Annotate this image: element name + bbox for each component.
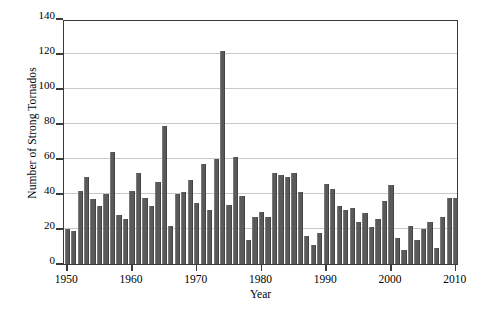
x-axis-tick [455, 265, 457, 271]
y-axis-tick-label: 40 [19, 185, 55, 195]
x-axis-tick-label: 2000 [360, 273, 420, 285]
x-axis-tick-label: 1970 [166, 273, 226, 285]
y-axis-tick [56, 158, 63, 160]
x-axis-tick-label: 1990 [295, 273, 355, 285]
y-axis-tick [56, 193, 63, 195]
y-axis-tick-label: 80 [19, 115, 55, 125]
y-axis-tick [56, 228, 63, 230]
y-axis-tick [56, 88, 63, 90]
x-axis-tick [390, 265, 392, 271]
y-axis-tick [56, 18, 63, 20]
y-axis-tick [56, 53, 63, 55]
tornado-bar-chart-figure: Number of Strong Tornados 02040608010012… [0, 0, 478, 309]
y-axis-tick-label: 0 [19, 255, 55, 265]
y-axis-tick-label: 120 [19, 45, 55, 55]
x-axis-tick [131, 265, 133, 271]
y-axis-tick-label: 60 [19, 150, 55, 160]
x-axis-tick-label: 1960 [101, 273, 161, 285]
y-axis-title: Number of Strong Tornados [22, 38, 42, 228]
x-axis-tick-label: 1950 [36, 273, 96, 285]
y-axis-tick-label: 100 [19, 80, 55, 90]
y-axis-tick-label: 140 [19, 10, 55, 20]
y-axis-tick [56, 263, 63, 265]
x-axis-tick [66, 265, 68, 271]
x-axis-tick-label: 1980 [231, 273, 291, 285]
x-axis-tick-label: 2010 [425, 273, 478, 285]
x-axis-tick [196, 265, 198, 271]
y-axis-tick [56, 123, 63, 125]
y-axis-ticks: 020406080100120140 [63, 20, 458, 265]
x-axis-tick [325, 265, 327, 271]
x-axis-title: Year [63, 288, 458, 300]
y-axis-tick-label: 20 [19, 220, 55, 230]
x-axis-tick [261, 265, 263, 271]
